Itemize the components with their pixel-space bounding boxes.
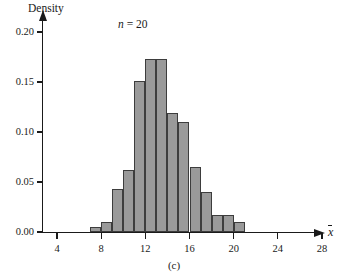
x-axis-tick	[189, 233, 190, 239]
x-axis-tick-label: 20	[228, 243, 239, 254]
histogram-bar	[123, 170, 134, 232]
histogram-bar	[134, 81, 145, 232]
y-axis-arrow-icon	[39, 10, 47, 21]
histogram-bars	[42, 32, 326, 232]
histogram-bar	[145, 59, 156, 232]
y-axis-tick-label: 0.10	[16, 127, 34, 137]
histogram-bar	[201, 192, 212, 232]
histogram-bar	[178, 122, 189, 232]
x-axis-tick	[321, 233, 322, 239]
x-axis-tick	[56, 233, 57, 239]
x-axis-title: x	[328, 226, 333, 238]
histogram-bar	[101, 222, 112, 232]
sample-size-annotation: n = 20	[118, 18, 148, 30]
histogram-bar	[90, 227, 101, 232]
x-axis-tick-label: 12	[140, 243, 151, 254]
histogram-bar	[234, 222, 245, 232]
x-axis-tick-label: 28	[317, 243, 328, 254]
annotation-equals: =	[127, 18, 134, 30]
annotation-symbol: n	[118, 18, 124, 30]
y-axis-tick-label: 0.00	[16, 227, 34, 237]
histogram-bar	[112, 189, 123, 232]
y-axis-tick-label: 0.15	[16, 77, 34, 87]
histogram-bar	[212, 215, 223, 232]
x-axis-tick-label: 4	[54, 243, 59, 254]
x-axis-tick	[145, 233, 146, 239]
histogram-bar	[190, 167, 201, 232]
y-axis-tick-labels: 0.000.050.100.150.20	[0, 0, 36, 280]
histogram-bar	[223, 215, 234, 232]
panel-label: (c)	[0, 259, 348, 271]
x-axis-line	[42, 232, 316, 233]
x-axis-tick-label: 24	[273, 243, 284, 254]
y-axis-tick-label: 0.20	[16, 27, 34, 37]
x-axis-tick	[277, 233, 278, 239]
histogram-bar	[156, 59, 167, 232]
x-axis-tick	[233, 233, 234, 239]
annotation-value: 20	[136, 18, 148, 30]
x-axis-tick-label: 16	[184, 243, 195, 254]
histogram-bar	[167, 113, 178, 232]
x-axis-tick-label: 8	[99, 243, 104, 254]
x-bar-glyph: x	[328, 226, 333, 238]
x-axis-tick	[101, 233, 102, 239]
histogram-figure: Density 0.000.050.100.150.20 48121620242…	[0, 0, 348, 280]
y-axis-tick-label: 0.05	[16, 177, 34, 187]
